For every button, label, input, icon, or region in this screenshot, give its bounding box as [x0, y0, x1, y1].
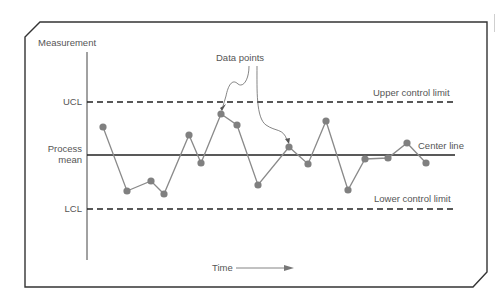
data-point [361, 155, 368, 162]
arrowhead-icon [285, 138, 290, 144]
data-point [123, 187, 130, 194]
callout-arrow-left [223, 66, 249, 106]
lcl-label: LCL [50, 204, 82, 214]
callout-arrows [223, 66, 287, 140]
data-points-callout-label: Data points [216, 53, 264, 63]
lower-control-limit-label: Lower control limit [374, 194, 451, 204]
data-point [344, 186, 351, 193]
data-point [147, 177, 154, 184]
data-point [304, 160, 311, 167]
data-point [422, 159, 429, 166]
data-point [403, 139, 410, 146]
x-axis-label: Time [212, 263, 233, 273]
data-point [197, 159, 204, 166]
data-point [254, 181, 261, 188]
time-arrow-head-icon [284, 265, 294, 271]
center-line-label: Center line [418, 141, 464, 151]
data-point [384, 154, 391, 161]
process-mean-label-line1: Process [30, 144, 82, 154]
upper-control-limit-label: Upper control limit [373, 88, 450, 98]
data-point [185, 131, 192, 138]
data-point [285, 143, 292, 150]
data-point [217, 110, 224, 117]
process-mean-label-line2: mean [30, 155, 82, 165]
data-point [233, 121, 240, 128]
data-point [99, 123, 106, 130]
data-point [322, 117, 329, 124]
callout-arrow-right [257, 66, 287, 140]
y-axis-label: Measurement [38, 38, 96, 48]
data-point [160, 190, 167, 197]
ucl-label: UCL [50, 97, 82, 107]
